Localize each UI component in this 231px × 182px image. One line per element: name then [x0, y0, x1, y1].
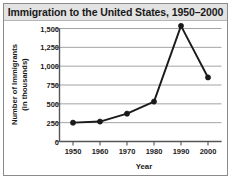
data-point-marker	[205, 75, 210, 80]
x-axis-title: Year	[66, 162, 222, 171]
data-point-marker	[70, 120, 75, 125]
data-point-marker	[97, 119, 102, 124]
data-point-marker	[124, 111, 129, 116]
data-point-marker	[151, 99, 156, 104]
data-line	[73, 26, 208, 123]
plot-area	[0, 0, 231, 182]
data-point-marker	[178, 23, 183, 28]
chart-figure: Immigration to the United States, 1950–2…	[0, 0, 231, 182]
